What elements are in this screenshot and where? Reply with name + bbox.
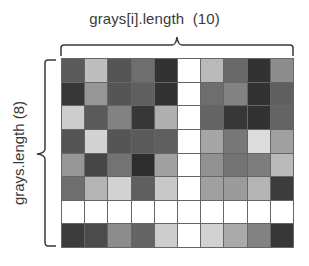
grid-cell xyxy=(132,83,154,106)
grid-cell xyxy=(62,154,84,177)
grid-cell xyxy=(62,201,84,224)
grid-cell xyxy=(248,154,270,177)
grid-cell xyxy=(132,177,154,200)
grid-cell xyxy=(271,177,293,200)
grid-cell xyxy=(155,201,177,224)
grid-cell xyxy=(108,224,130,247)
grid-cell xyxy=(62,177,84,200)
grid-cell xyxy=(248,106,270,129)
grid-cell xyxy=(201,224,223,247)
grid-cell xyxy=(224,177,246,200)
grid-cell xyxy=(178,154,200,177)
grid-cell xyxy=(201,83,223,106)
rows-length-label: grays.length (8) xyxy=(10,101,27,205)
grid-cell xyxy=(248,83,270,106)
grid-cell xyxy=(108,83,130,106)
grid-cell xyxy=(224,130,246,153)
grid-cell xyxy=(178,224,200,247)
grid-cell xyxy=(85,106,107,129)
grid-cell xyxy=(132,106,154,129)
grid-cell xyxy=(271,154,293,177)
grid-cell xyxy=(62,83,84,106)
grid-cell xyxy=(224,59,246,82)
grid-cell xyxy=(85,130,107,153)
grid-cell xyxy=(201,201,223,224)
grid-cell xyxy=(85,59,107,82)
grid-cell xyxy=(224,83,246,106)
rows-length-text: grays.length (8) xyxy=(10,101,27,205)
grid-cell xyxy=(248,224,270,247)
grid-cell xyxy=(85,201,107,224)
columns-length-text: grays[i].length (10) xyxy=(89,10,220,27)
grid-cell xyxy=(108,201,130,224)
grid-cell xyxy=(85,154,107,177)
grid-cell xyxy=(248,59,270,82)
left-brace-icon xyxy=(37,60,56,246)
grid-cell xyxy=(155,177,177,200)
grid-cell xyxy=(62,106,84,129)
grid-cell xyxy=(155,224,177,247)
grid-cell xyxy=(271,83,293,106)
grid-cell xyxy=(62,224,84,247)
grid-cell xyxy=(224,154,246,177)
grid-cell xyxy=(224,201,246,224)
grid-cell xyxy=(201,130,223,153)
grid-cell xyxy=(178,59,200,82)
grid-cell xyxy=(224,224,246,247)
grid-cell xyxy=(132,224,154,247)
grid-cell xyxy=(178,177,200,200)
grid-cell xyxy=(108,130,130,153)
grid-cell xyxy=(178,83,200,106)
grid-cell xyxy=(201,59,223,82)
grid-cell xyxy=(62,59,84,82)
grid-cell xyxy=(224,106,246,129)
grid-cell xyxy=(201,106,223,129)
grid-cell xyxy=(108,177,130,200)
grid-cell xyxy=(85,177,107,200)
grid-cell xyxy=(155,106,177,129)
grid-cell xyxy=(155,59,177,82)
grid-cell xyxy=(155,130,177,153)
grid-cell xyxy=(271,59,293,82)
top-brace-icon xyxy=(61,37,293,56)
grid-cell xyxy=(132,59,154,82)
grid-cell xyxy=(271,130,293,153)
grid-cell xyxy=(155,154,177,177)
grid-cell xyxy=(271,106,293,129)
columns-length-label: grays[i].length (10) xyxy=(0,10,309,27)
grid-cell xyxy=(201,177,223,200)
grid-cell xyxy=(132,154,154,177)
grid-cell xyxy=(155,83,177,106)
grid-cell xyxy=(85,224,107,247)
grid-cell xyxy=(62,130,84,153)
grid-cell xyxy=(108,154,130,177)
grid-cell xyxy=(85,83,107,106)
grid-cell xyxy=(248,130,270,153)
grayscale-grid xyxy=(61,58,294,248)
grid-cell xyxy=(178,106,200,129)
grid-cell xyxy=(271,201,293,224)
grid-cell xyxy=(132,201,154,224)
grid-cell xyxy=(201,154,223,177)
grid-cell xyxy=(248,177,270,200)
grid-cell xyxy=(108,59,130,82)
grid-cell xyxy=(248,201,270,224)
grid-cell xyxy=(178,201,200,224)
grid-cell xyxy=(271,224,293,247)
grid-cell xyxy=(178,130,200,153)
grid-cell xyxy=(132,130,154,153)
grid-cell xyxy=(108,106,130,129)
